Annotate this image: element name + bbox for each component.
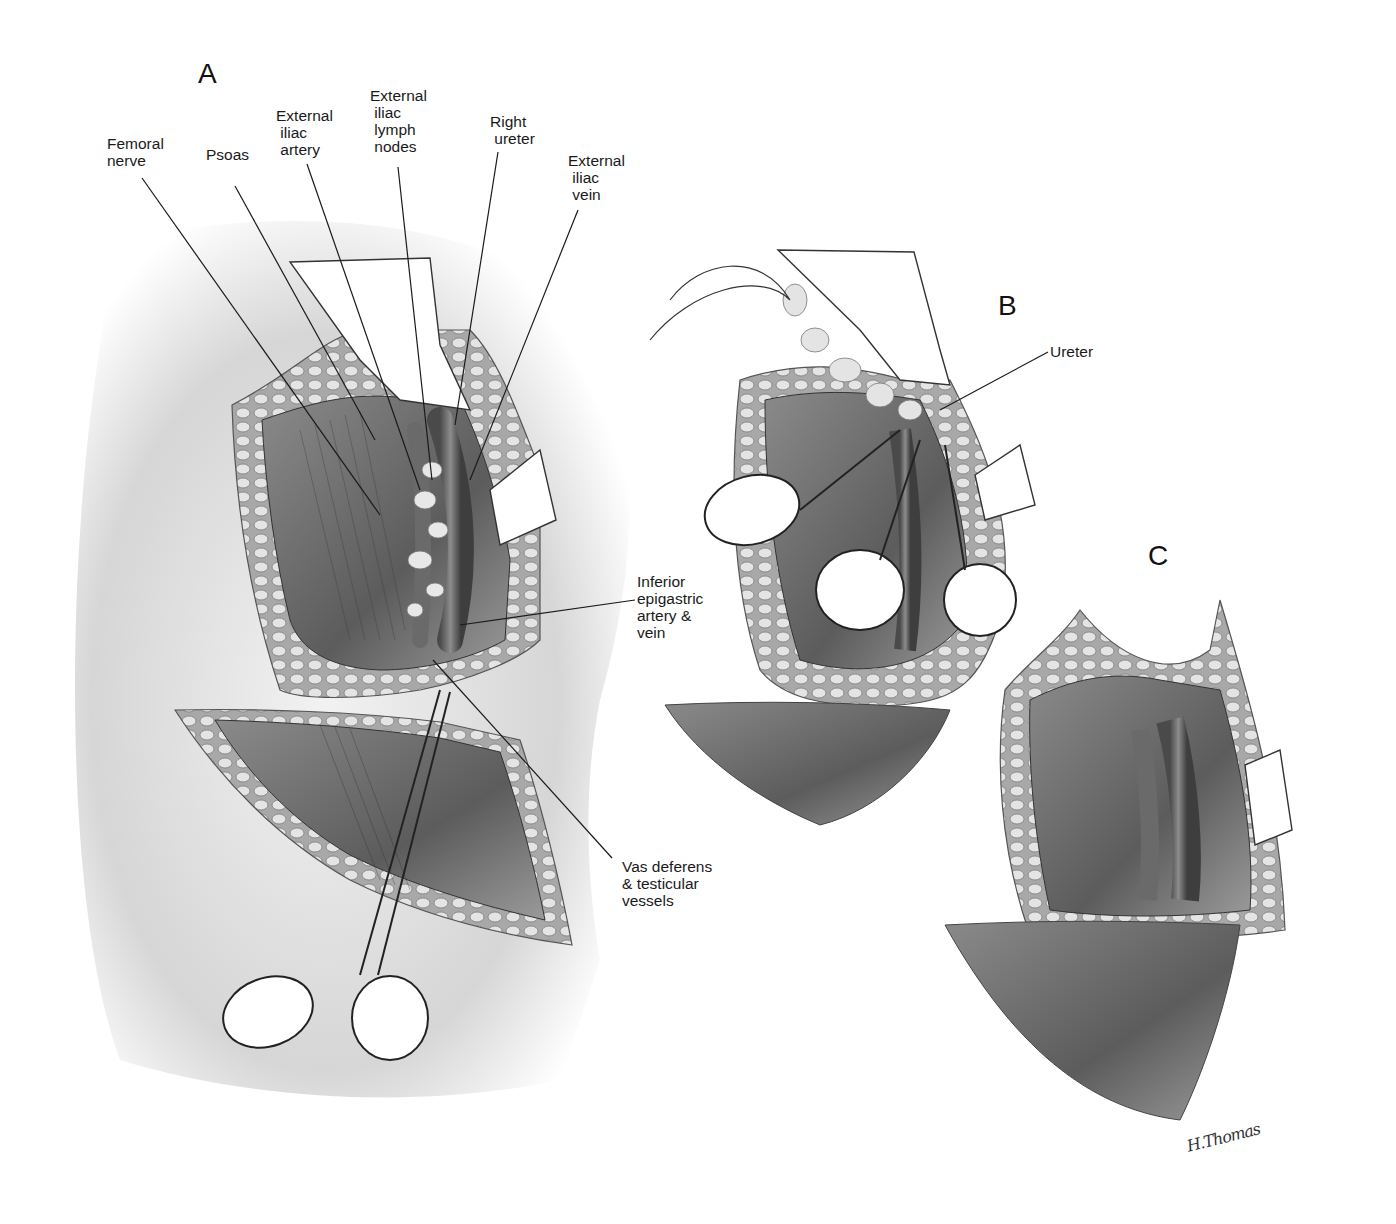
label-external-iliac-lymph-nodes: External iliac lymph nodes bbox=[370, 87, 427, 155]
panel-c-artwork bbox=[945, 600, 1292, 1120]
label-vas-deferens: Vas deferens & testicular vessels bbox=[622, 858, 712, 909]
ureter-leader-line bbox=[940, 352, 1048, 410]
label-psoas: Psoas bbox=[206, 146, 249, 163]
label-inferior-epigastric: Inferior epigastric artery & vein bbox=[637, 573, 703, 641]
panel-label-a: A bbox=[198, 58, 217, 90]
label-femoral-nerve: Femoral nerve bbox=[107, 135, 164, 169]
panel-label-b: B bbox=[998, 290, 1017, 322]
label-external-iliac-artery: External iliac artery bbox=[276, 107, 333, 158]
panel-b-artwork bbox=[650, 250, 1035, 825]
panel-label-c: C bbox=[1148, 540, 1168, 572]
panel-a-artwork bbox=[75, 221, 630, 1097]
label-ureter: Ureter bbox=[1050, 343, 1093, 360]
label-external-iliac-vein: External iliac vein bbox=[568, 152, 625, 203]
label-right-ureter: Right ureter bbox=[490, 113, 535, 147]
